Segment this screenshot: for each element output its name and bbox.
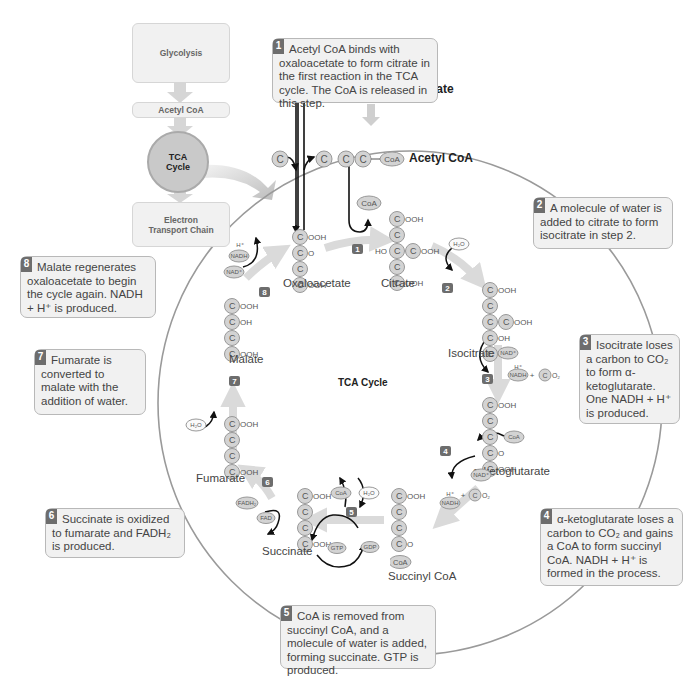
- svg-text:H⁺: H⁺: [514, 364, 521, 370]
- step-6-text: Succinate is oxidized to fumarate and FA…: [52, 513, 171, 552]
- step-8-text: Malate regenerates oxaloacetate to begin…: [27, 261, 143, 314]
- step-6-badge: 6: [46, 509, 57, 524]
- step-7-text: Fumarate is converted to malate with the…: [41, 354, 128, 407]
- step-5-callout: 5CoA is removed from succinyl CoA, and a…: [280, 605, 436, 669]
- svg-text:NADH: NADH: [441, 500, 458, 506]
- svg-text:NAD⁺: NAD⁺: [500, 350, 516, 356]
- svg-text:C: C: [472, 492, 477, 499]
- svg-text:NAD⁺: NAD⁺: [226, 269, 242, 275]
- svg-text:H₂O: H₂O: [453, 241, 465, 247]
- step-3-callout: 3Isocitrate loses a carbon to CO₂ to for…: [579, 334, 680, 424]
- step-4-badge: 4: [541, 509, 552, 524]
- step-8-badge: 8: [21, 257, 32, 272]
- step-5-text: CoA is removed from succinyl CoA, and a …: [287, 610, 427, 676]
- step-2-text: A molecule of water is added to citrate …: [540, 202, 662, 241]
- svg-text:C: C: [542, 372, 547, 379]
- svg-text:+: +: [530, 371, 535, 380]
- step-6-callout: 6Succinate is oxidized to fumarate and F…: [45, 508, 185, 558]
- svg-text:O₂: O₂: [482, 492, 490, 499]
- step-3-badge: 3: [580, 335, 591, 350]
- svg-text:FAD: FAD: [260, 515, 272, 521]
- svg-text:H⁺: H⁺: [446, 491, 453, 497]
- svg-text:GDP: GDP: [363, 544, 376, 550]
- step-1-callout: 1Acetyl CoA binds with oxaloacetate to f…: [272, 38, 438, 103]
- svg-text:CoA: CoA: [335, 490, 347, 496]
- step-5-badge: 5: [281, 606, 292, 621]
- svg-text:NAD⁺: NAD⁺: [473, 472, 489, 478]
- svg-text:O₂: O₂: [552, 372, 560, 379]
- step-4-text: α-ketoglutarate loses a carbon to CO₂ an…: [547, 513, 674, 579]
- svg-text:H⁺: H⁺: [236, 242, 243, 248]
- step-7-callout: 7Fumarate is converted to malate with th…: [34, 349, 146, 415]
- svg-text:+: +: [461, 491, 466, 500]
- step-1-badge: 1: [273, 39, 284, 54]
- step-1-text: Acetyl CoA binds with oxaloacetate to fo…: [279, 43, 430, 109]
- svg-text:H₂O: H₂O: [190, 422, 202, 428]
- svg-text:FADH₂: FADH₂: [238, 500, 257, 506]
- step-3-text: Isocitrate loses a carbon to CO₂ to form…: [586, 339, 673, 419]
- svg-text:NADH: NADH: [509, 372, 526, 378]
- step-2-badge: 2: [534, 198, 545, 213]
- svg-text:GTP: GTP: [331, 545, 343, 551]
- step-8-callout: 8Malate regenerates oxaloacetate to begi…: [20, 256, 156, 318]
- svg-text:NADH: NADH: [230, 253, 247, 259]
- svg-text:H₂O: H₂O: [363, 490, 375, 496]
- step-4-callout: 4α-ketoglutarate loses a carbon to CO₂ a…: [540, 508, 683, 586]
- svg-text:CoA: CoA: [508, 434, 520, 440]
- step-7-badge: 7: [35, 350, 46, 365]
- step-2-callout: 2A molecule of water is added to citrate…: [533, 197, 673, 249]
